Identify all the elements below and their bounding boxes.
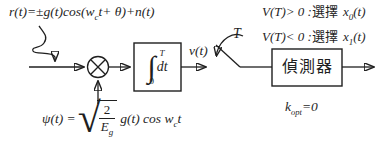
psi-square-root: √ 2 Eg [78,100,118,137]
input-signal-formula: r(t)=±g(t)cos(wct+ θ)+n(t) [9,4,155,20]
psi-lhs: ψ(t) = [42,111,76,127]
condition-1-signal-arg: (t) [353,4,365,19]
integral-upper-limit: T [159,48,164,58]
kopt-subscript: opt [291,107,302,117]
switch-blade [216,45,240,67]
condition-1-choose-text: 選擇 [312,4,338,19]
psi-formula: ψ(t) = √ 2 Eg g(t) cos wct [42,100,181,137]
input-formula-mid: t+ [99,4,115,19]
psi-rhs-body: g(t) cos w [120,111,173,126]
vt-output-label: v(t) [189,43,208,59]
kopt-value: =0 [302,99,318,114]
sample-time-label: T [233,26,241,42]
psi-rhs: g(t) cos wct [120,111,181,127]
kopt-label: kopt=0 [285,99,318,115]
plus-minus-sign: ± [36,4,43,19]
condition-v-positive: V(T)> 0 :選擇x0(t) [262,5,366,20]
energy-subscript: g [109,126,114,136]
noise-squiggle-arrow [33,26,55,60]
radical-content: 2 Eg [97,100,118,133]
fraction-numerator: 2 [99,103,116,119]
detector-label: 偵測器 [272,49,342,86]
energy-symbol: E [101,119,109,134]
condition-2-choose-text: 選擇 [312,29,338,44]
integral-lower-limit: 0 [149,76,154,86]
input-formula-body: g(t)cos(w [44,4,95,19]
fraction-denominator: Eg [101,119,113,134]
integrator-label: ∫T0dt [134,43,181,91]
radical-sign: √ [78,100,99,137]
integral-expression: ∫T0dt [147,52,167,82]
input-formula-tail: )+n(t) [121,4,154,19]
condition-2-inequality: V(T)< 0 : [262,29,312,44]
input-formula-lhs: r(t)= [9,4,36,19]
condition-1-inequality: V(T)> 0 : [262,4,312,19]
energy-fraction: 2 Eg [99,103,116,133]
integral-dt: dt [157,59,168,75]
psi-rhs-time: t [177,111,181,126]
condition-v-negative: V(T)< 0 :選擇x1(t) [262,30,366,45]
correlator-receiver-diagram: r(t)=±g(t)cos(wct+ θ)+n(t) V(T)> 0 :選擇x0… [0,0,385,150]
condition-2-signal-arg: (t) [353,29,365,44]
